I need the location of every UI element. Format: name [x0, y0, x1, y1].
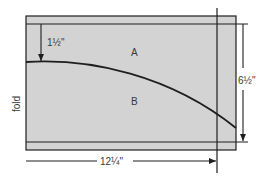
height-label: 6½" [238, 75, 256, 86]
fold-label: fold [11, 96, 22, 112]
top-offset-label: 1½" [47, 37, 65, 48]
region-a-label: A [131, 47, 138, 58]
width-label: 12¼" [100, 156, 123, 167]
fold-pattern-diagram: 1½" 6½" A B fold 12¼" [0, 0, 271, 181]
region-b-label: B [131, 96, 138, 107]
